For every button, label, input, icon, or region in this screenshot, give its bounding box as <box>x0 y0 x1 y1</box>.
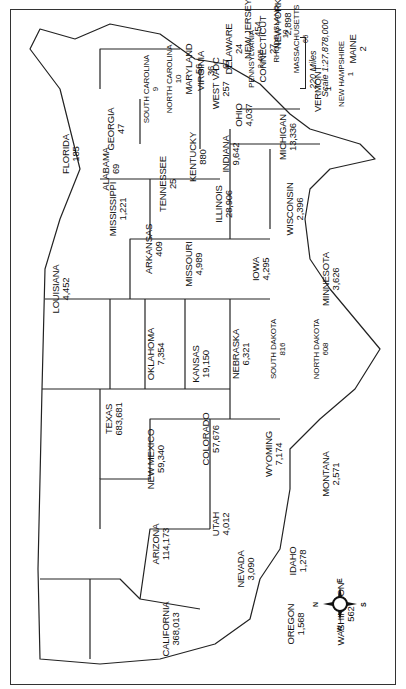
state-label-iowa: Iowa4,295 <box>251 257 271 281</box>
state-value: 7,174 <box>274 431 284 477</box>
state-label-south-dakota: South Dakota816 <box>269 319 287 379</box>
state-label-florida: Florida185 <box>61 134 81 174</box>
state-value: 13,336 <box>288 114 298 160</box>
state-label-wyoming: Wyoming7,174 <box>264 431 284 477</box>
state-name: South Carolina <box>142 55 151 123</box>
state-label-kentucky: Kentucky880 <box>188 132 208 182</box>
state-label-nevada: Nevada3,090 <box>236 550 256 587</box>
state-label-arizona: Arizona114,173 <box>151 524 171 565</box>
state-value: 2,396 <box>295 182 305 235</box>
state-label-montana: Montana2,571 <box>321 451 341 496</box>
state-value: 67 <box>221 57 231 70</box>
compass-east: E <box>336 578 343 583</box>
compass-north: N <box>312 602 319 607</box>
state-label-georgia: Georgia47 <box>106 108 126 151</box>
state-label-new-mexico: New Mexico59,340 <box>146 429 166 489</box>
state-label-indiana: Indiana9,642 <box>221 135 241 172</box>
state-value: 454 <box>253 0 263 59</box>
state-label-oregon: Oregon1,568 <box>286 603 306 644</box>
state-value: 3,626 <box>331 252 341 306</box>
state-value: 608 <box>321 319 330 379</box>
state-value: 368,013 <box>171 601 181 656</box>
compass-west: W <box>336 625 343 632</box>
state-label-missouri: Missouri4,989 <box>184 241 204 286</box>
state-label-oklahoma: Oklahoma7,354 <box>146 328 166 380</box>
state-label-maine: Maine2 <box>348 34 368 63</box>
compass-icon <box>320 584 360 624</box>
state-label-utah: Utah4,012 <box>211 512 231 536</box>
state-value: 4,452 <box>61 265 71 314</box>
scale-legend: 220 Miles Scale 1:27,878,000 <box>300 0 340 89</box>
state-value: 56 <box>194 43 204 94</box>
state-value: 7,354 <box>156 328 166 380</box>
state-value: 6,321 <box>241 329 251 379</box>
state-value: 47 <box>116 108 126 151</box>
state-label-illinois: Illinois28,906 <box>214 185 234 222</box>
state-label-texas: Texas683,681 <box>104 403 124 436</box>
state-name: South Dakota <box>269 319 278 379</box>
map-figure: Washington562Oregon1,568California368,01… <box>0 0 406 689</box>
state-value: 683,681 <box>114 403 124 436</box>
state-value: 3,090 <box>246 550 256 587</box>
state-value: 4,989 <box>194 241 204 286</box>
state-name: North Carolina <box>165 45 174 114</box>
state-label-wisconsin: Wisconsin2,396 <box>285 182 305 235</box>
state-value: 9 <box>151 55 160 123</box>
state-value: 19,150 <box>201 345 211 382</box>
state-value: 4,037 <box>244 103 254 126</box>
state-label-dc: DC67 <box>211 57 231 70</box>
state-value: 816 <box>278 319 287 379</box>
state-value: 185 <box>71 134 81 174</box>
state-label-idaho: Idaho1,278 <box>288 546 308 575</box>
map-canvas: Washington562Oregon1,568California368,01… <box>0 0 406 689</box>
state-value: 24 <box>234 23 244 74</box>
state-value: 2 <box>358 34 368 63</box>
state-label-north-dakota: North Dakota608 <box>312 319 330 379</box>
state-value: 69 <box>111 147 121 190</box>
state-value: 4,295 <box>261 257 271 281</box>
state-value: 257 <box>221 69 231 109</box>
state-value: 2,571 <box>331 451 341 496</box>
state-value: 27 <box>268 16 278 83</box>
state-label-michigan: Michigan13,336 <box>278 114 298 160</box>
state-label-new-jersey: New Jersey454 <box>243 0 263 59</box>
state-label-maryland: Maryland56 <box>184 43 204 94</box>
state-value: 409 <box>154 224 164 274</box>
state-value: 114,173 <box>161 524 171 565</box>
state-label-minnesota: Minnesota3,626 <box>321 252 341 306</box>
state-value: 57,676 <box>211 413 221 466</box>
scale-bar <box>300 37 306 89</box>
state-label-arkansas: Arkansas409 <box>144 224 164 274</box>
state-label-california: California368,013 <box>161 601 181 656</box>
state-label-ohio: Ohio4,037 <box>234 103 254 126</box>
state-label-south-carolina: South Carolina9 <box>142 55 160 123</box>
state-value: 9,642 <box>231 135 241 172</box>
state-value: 1,568 <box>296 603 306 644</box>
state-label-nebraska: Nebraska6,321 <box>231 329 251 379</box>
state-label-alabama: Alabama69 <box>101 147 121 190</box>
state-label-west-virginia: West VA257 <box>211 69 231 109</box>
state-label-kansas: Kansas19,150 <box>191 345 211 382</box>
scale-distance-label: 220 Miles <box>308 50 318 89</box>
state-label-tennessee: Tennessee25 <box>158 156 178 212</box>
state-value: 28,906 <box>224 185 234 222</box>
state-label-north-carolina: North Carolina10 <box>165 45 183 114</box>
state-value: 10 <box>174 45 183 114</box>
state-value: 880 <box>198 132 208 182</box>
compass-rose: N E S W <box>320 584 360 624</box>
state-value: 59,340 <box>156 429 166 489</box>
scale-ratio-label: Scale 1:27,878,000 <box>320 19 330 97</box>
state-value: 1,278 <box>298 546 308 575</box>
state-label-louisiana: Louisiana4,452 <box>51 265 71 314</box>
compass-south: S <box>360 602 367 607</box>
state-value: 25 <box>168 156 178 212</box>
state-value: 4,012 <box>221 512 231 536</box>
state-value: 10 <box>281 5 290 63</box>
state-label-colorado: Colorado57,676 <box>201 413 221 466</box>
state-name: North Dakota <box>312 319 321 379</box>
